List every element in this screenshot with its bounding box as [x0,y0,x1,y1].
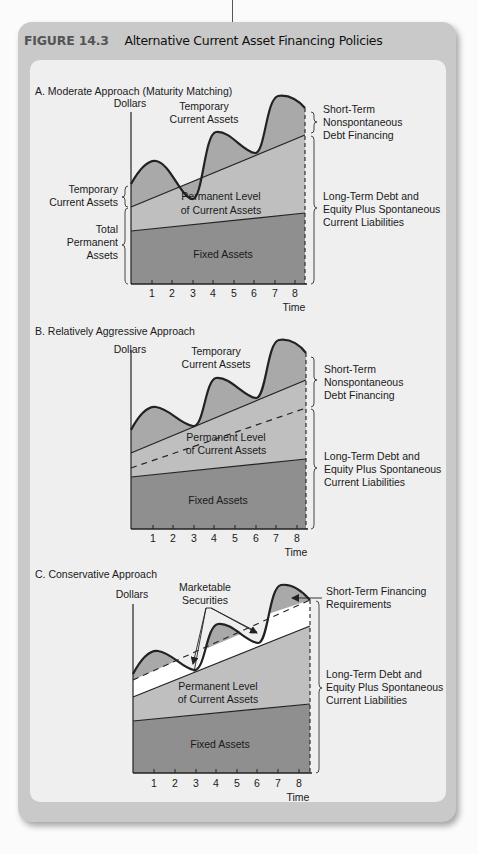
panel-b-right-label-long-3: Current Liabilities [324,476,405,488]
panel-b-permanent-label-2: of Current Assets [186,444,267,456]
svg-text:4: 4 [210,287,216,299]
panel-a-fixed-label: Fixed Assets [193,248,253,260]
svg-text:1: 1 [150,532,156,544]
panel-a-right-brace-short [311,112,317,133]
panel-b-temporary-label-1: Temporary [191,345,241,357]
svg-text:1: 1 [151,777,157,789]
svg-text:8: 8 [296,777,302,789]
financing-policies-diagram: A. Moderate Approach (Maturity Matching)… [0,0,478,854]
svg-text:7: 7 [275,777,281,789]
panel-a-right-label-short-1: Short-Term [323,103,375,115]
panel-c-right-label-long-2: Equity Plus Spontaneous [326,681,443,693]
panel-b-tick-labels: 1 2 3 4 5 6 7 8 [150,532,300,544]
panel-b-right-label-short-2: Nonspontaneous [324,376,403,388]
panel-c-right-brace-long [316,601,322,773]
panel-a: A. Moderate Approach (Maturity Matching)… [35,85,440,313]
svg-text:6: 6 [251,287,257,299]
svg-text:6: 6 [254,777,260,789]
panel-a-left-label-permanent-2: Permanent [67,236,118,248]
panel-b-right-label-long-1: Long-Term Debt and [324,450,420,462]
panel-b: B. Relatively Aggressive Approach 1 2 3 … [35,325,441,558]
svg-text:5: 5 [234,777,240,789]
panel-a-left-label-permanent-3: Assets [86,249,118,261]
panel-c-x-label: Time [287,791,310,803]
svg-text:2: 2 [172,777,178,789]
svg-text:7: 7 [273,532,279,544]
panel-a-x-label: Time [283,301,306,313]
panel-b-x-label: Time [285,546,308,558]
panel-b-permanent-label-1: Permanent Level [186,431,265,443]
svg-text:8: 8 [294,532,300,544]
svg-text:5: 5 [231,287,237,299]
panel-a-left-label-temporary-2: Current Assets [49,196,118,208]
panel-a-permanent-label-2: of Current Assets [181,204,262,216]
svg-text:3: 3 [190,287,196,299]
panel-b-right-brace-long [311,409,317,529]
panel-a-right-brace-long [311,136,317,284]
panel-c-permanent-label-1: Permanent Level [178,680,257,692]
panel-c-short-term-label-1: Short-Term Financing [326,585,427,597]
panel-a-temporary-label-1: Temporary [179,100,229,112]
svg-text:3: 3 [193,777,199,789]
panel-c-y-label: Dollars [116,588,149,600]
panel-a-right-label-long-3: Current Liabilities [323,216,404,228]
panel-b-right-label-short-3: Debt Financing [324,389,395,401]
panel-a-temporary-label-2: Current Assets [170,113,239,125]
panel-c-right-label-long-1: Long-Term Debt and [326,668,422,680]
panel-a-tick-labels: 1 2 3 4 5 6 7 8 [149,287,298,299]
panel-c-tick-labels: 1 2 3 4 5 6 7 8 [151,777,302,789]
svg-text:4: 4 [211,532,217,544]
panel-a-right-label-long-1: Long-Term Debt and [323,190,419,202]
panel-c-marketable-label-2: Securities [182,594,228,606]
panel-c: C. Conservative Approach 1 2 3 4 5 6 7 8 [35,568,443,803]
svg-text:2: 2 [169,287,175,299]
panel-c-fixed-label: Fixed Assets [190,738,250,750]
panel-b-fixed-label: Fixed Assets [188,494,248,506]
panel-b-right-label-long-2: Equity Plus Spontaneous [324,463,441,475]
panel-b-right-brace-short [311,357,317,407]
panel-a-y-label: Dollars [114,97,147,109]
panel-a-heading: A. Moderate Approach (Maturity Matching) [35,85,232,97]
panel-c-heading: C. Conservative Approach [35,568,157,580]
svg-text:5: 5 [232,532,238,544]
svg-text:3: 3 [191,532,197,544]
svg-text:6: 6 [253,532,259,544]
panel-c-marketable-label-1: Marketable [179,581,231,593]
svg-text:4: 4 [213,777,219,789]
panel-a-left-label-temporary-1: Temporary [68,183,118,195]
svg-text:7: 7 [272,287,278,299]
panel-b-right-label-short-1: Short-Term [324,363,376,375]
svg-text:8: 8 [292,287,298,299]
panel-c-short-term-label-2: Requirements [326,598,391,610]
panel-a-right-label-short-2: Nonspontaneous [323,116,402,128]
panel-b-y-label: Dollars [114,343,147,355]
panel-a-left-brace-permanent [122,208,128,284]
svg-text:2: 2 [170,532,176,544]
panel-a-right-label-short-3: Debt Financing [323,129,394,141]
panel-a-right-label-long-2: Equity Plus Spontaneous [323,203,440,215]
svg-text:1: 1 [149,287,155,299]
panel-a-left-brace-temporary [122,186,128,207]
panel-a-permanent-label-1: Permanent Level [181,190,260,202]
panel-c-permanent-label-2: of Current Assets [178,693,259,705]
panel-c-right-label-long-3: Current Liabilities [326,694,407,706]
panel-b-temporary-label-2: Current Assets [182,358,251,370]
panel-b-heading: B. Relatively Aggressive Approach [35,325,195,337]
panel-a-left-label-permanent-1: Total [96,223,118,235]
